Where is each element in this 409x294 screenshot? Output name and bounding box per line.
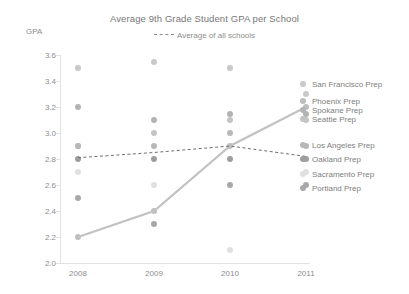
highlight-series-line: [78, 107, 306, 237]
dashed-line-icon: [154, 31, 174, 37]
y-tick-label: 2.2: [30, 233, 56, 242]
plot-area: 3.63.43.23.02.82.62.42.22.0 200820092010…: [60, 50, 310, 263]
data-point: [303, 91, 309, 97]
y-tick-mark: [56, 185, 60, 186]
x-tick-label: 2008: [69, 269, 87, 278]
legend-item-label: Portland Prep: [312, 183, 361, 194]
data-point: [75, 104, 81, 110]
data-point: [75, 143, 81, 149]
y-tick-mark: [56, 263, 60, 264]
chart-canvas: Average 9th Grade Student GPA per School…: [0, 0, 409, 294]
y-tick-mark: [56, 55, 60, 56]
data-point: [75, 169, 81, 175]
x-tick-label: 2011: [297, 269, 314, 278]
y-tick-label: 3.2: [30, 103, 56, 112]
data-point: [151, 130, 157, 136]
average-line-legend: Average of all schools: [0, 31, 409, 40]
x-tick-label: 2010: [221, 269, 239, 278]
legend-marker-icon: [300, 185, 306, 191]
data-point: [151, 143, 157, 149]
data-point: [227, 156, 233, 162]
legend-marker-icon: [300, 116, 306, 122]
y-tick-mark: [56, 237, 60, 238]
data-point: [151, 208, 157, 214]
legend-item-label: Seattle Prep: [312, 114, 356, 125]
x-tick-label: 2009: [145, 269, 163, 278]
data-point: [151, 156, 157, 162]
data-point: [151, 221, 157, 227]
y-tick-label: 3.4: [30, 77, 56, 86]
data-point: [151, 59, 157, 65]
legend-item-label: San Francisco Prep: [312, 79, 382, 90]
legend-item-label: Los Angeles Prep: [312, 140, 375, 151]
y-tick-mark: [56, 211, 60, 212]
data-point: [151, 182, 157, 188]
y-tick-label: 3.0: [30, 129, 56, 138]
average-line-legend-label: Average of all schools: [177, 31, 255, 40]
y-axis-line: [60, 55, 61, 263]
data-point: [227, 117, 233, 123]
y-tick-label: 3.6: [30, 51, 56, 60]
data-point: [75, 156, 81, 162]
y-tick-label: 2.0: [30, 259, 56, 268]
y-tick-mark: [56, 133, 60, 134]
data-point: [227, 182, 233, 188]
data-point: [75, 234, 81, 240]
chart-title: Average 9th Grade Student GPA per School: [0, 13, 409, 24]
legend-item-label: Oakland Prep: [312, 154, 361, 165]
y-tick-label: 2.6: [30, 181, 56, 190]
legend-item-label: Sacramento Prep: [312, 169, 374, 180]
y-tick-mark: [56, 159, 60, 160]
data-point: [227, 143, 233, 149]
average-series-line: [78, 146, 306, 158]
y-axis-title: GPA: [26, 27, 42, 36]
legend-marker-icon: [300, 81, 306, 87]
legend-marker-icon: [300, 156, 306, 162]
data-point: [151, 117, 157, 123]
y-tick-label: 2.4: [30, 207, 56, 216]
legend-marker-icon: [300, 107, 306, 113]
data-point: [227, 65, 233, 71]
y-tick-label: 2.8: [30, 155, 56, 164]
x-axis-line: [60, 263, 310, 264]
data-point: [75, 195, 81, 201]
legend-marker-icon: [300, 142, 306, 148]
legend-marker-icon: [300, 171, 306, 177]
data-point: [75, 65, 81, 71]
trend-lines: [60, 50, 310, 263]
y-tick-mark: [56, 81, 60, 82]
data-point: [227, 130, 233, 136]
y-tick-mark: [56, 107, 60, 108]
data-point: [227, 111, 233, 117]
data-point: [227, 247, 233, 253]
legend-marker-icon: [300, 98, 306, 104]
